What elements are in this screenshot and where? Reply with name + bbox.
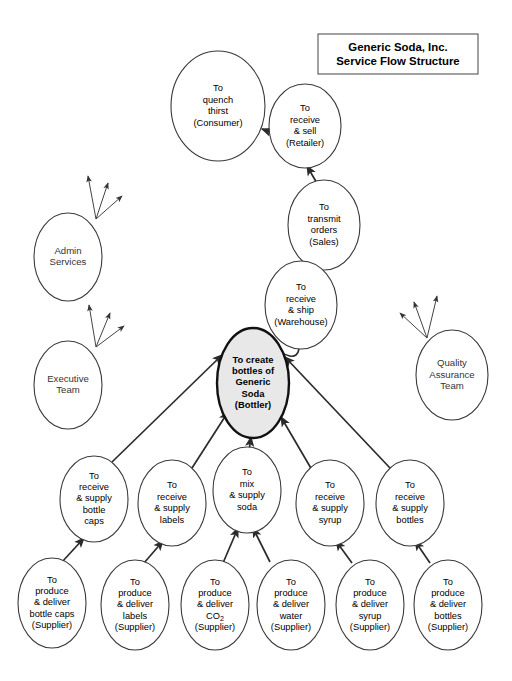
- node-label-supply_labels-line-1: To: [167, 480, 177, 490]
- node-label-bottler-line-4: Soda: [242, 388, 266, 399]
- node-supply_bottles[interactable]: Toreceive& supplybottles: [376, 460, 444, 546]
- node-quality[interactable]: QualityAssuranceTeam: [416, 330, 488, 420]
- node-mix_soda[interactable]: Tomix& supplysoda: [213, 447, 281, 533]
- node-label-sales-line-1: To: [319, 202, 329, 212]
- node-bottler[interactable]: To createbottles ofGenericSoda(Bottler): [217, 328, 289, 438]
- node-label-consumer-line-3: thirst: [208, 106, 229, 116]
- flow-edge-prod_caps-to-supply_caps: [62, 538, 84, 562]
- node-label-admin-line-1: Admin: [54, 245, 81, 256]
- node-label-bottler-line-2: bottles of: [232, 365, 275, 376]
- node-supply_caps[interactable]: Toreceive& supplybottlecaps: [60, 456, 128, 542]
- node-label-mix_soda-line-4: soda: [237, 502, 258, 512]
- node-label-executive-line-2: Team: [56, 384, 79, 395]
- node-label-warehouse-line-2: receive: [286, 294, 316, 304]
- node-label-prod_water-line-5: (Supplier): [271, 622, 311, 632]
- node-label-supply_caps-line-5: caps: [84, 516, 104, 526]
- node-label-prod_co2-line-1: To: [210, 577, 220, 587]
- admin-fan-ray-1: [88, 176, 96, 219]
- node-label-quality-line-2: Assurance: [429, 369, 474, 380]
- node-label-warehouse-line-3: & ship: [288, 305, 314, 315]
- node-label-supply_labels-line-2: receive: [157, 492, 187, 502]
- node-label-bottler-line-5: (Bottler): [235, 399, 271, 410]
- title-box-frame: [318, 34, 478, 74]
- node-label-sales-line-4: (Sales): [309, 237, 338, 247]
- node-label-warehouse-line-1: To: [296, 282, 306, 292]
- node-label-supply_caps-line-3: & supply: [76, 493, 112, 503]
- support-fans-layer: [88, 176, 437, 347]
- node-label-prod_bottles-line-5: (Supplier): [428, 622, 468, 632]
- node-label-prod_caps-line-4: bottle caps: [30, 609, 75, 619]
- node-label-prod_bottles-line-2: produce: [431, 588, 465, 598]
- node-label-mix_soda-line-2: mix: [240, 479, 255, 489]
- node-label-prod_water-line-3: & deliver: [273, 599, 309, 609]
- node-label-supply_syrup-line-1: To: [325, 480, 335, 490]
- node-label-retailer-line-4: (Retailer): [286, 138, 324, 148]
- executive-fan: [89, 305, 124, 347]
- node-label-prod_bottles-line-4: bottles: [434, 611, 462, 621]
- node-label-prod_syrup-line-3: & deliver: [352, 599, 388, 609]
- node-label-supply_caps-line-2: receive: [79, 482, 109, 492]
- node-supply_labels[interactable]: Toreceive& supplylabels: [138, 460, 206, 546]
- node-label-prod_labels-line-2: produce: [118, 588, 152, 598]
- quality-fan-ray-1: [427, 296, 437, 338]
- node-label-supply_caps-line-4: bottle: [83, 505, 106, 515]
- flow-edge-prod_labels-to-supply_labels: [144, 541, 163, 563]
- node-executive[interactable]: ExecutiveTeam: [34, 341, 102, 429]
- service-flow-diagram: Toquenchthirst(Consumer)Toreceive& sell(…: [0, 0, 512, 681]
- node-prod_syrup[interactable]: Toproduce& deliversyrup(Supplier): [336, 560, 404, 650]
- node-consumer[interactable]: Toquenchthirst(Consumer): [171, 51, 265, 161]
- node-label-prod_labels-line-1: To: [130, 577, 140, 587]
- node-label-sales-line-2: transmit: [307, 214, 340, 224]
- quality-fan: [400, 296, 437, 338]
- node-label-supply_syrup-line-2: receive: [315, 492, 345, 502]
- node-label-bottler-line-1: To create: [233, 354, 274, 365]
- node-prod_co2[interactable]: Toproduce& deliverCO2(Supplier): [181, 560, 249, 650]
- node-warehouse[interactable]: Toreceive& ship(Warehouse): [265, 261, 337, 349]
- node-label-consumer-line-1: To: [213, 83, 223, 93]
- node-label-warehouse-line-4: (Warehouse): [274, 317, 327, 327]
- node-label-supply_bottles-line-4: bottles: [396, 515, 424, 525]
- node-label-consumer-line-4: (Consumer): [193, 118, 242, 128]
- node-prod_water[interactable]: Toproduce& deliverwater(Supplier): [257, 560, 325, 650]
- node-sales[interactable]: Totransmitorders(Sales): [288, 180, 360, 270]
- node-label-supply_bottles-line-1: To: [405, 480, 415, 490]
- diagram-canvas: Toquenchthirst(Consumer)Toreceive& sell(…: [0, 0, 512, 681]
- node-label-prod_caps-line-5: (Supplier): [32, 620, 72, 630]
- node-prod_labels[interactable]: Toproduce& deliverlabels(Supplier): [101, 560, 169, 650]
- node-supply_syrup[interactable]: Toreceive& supplysyrup: [296, 460, 364, 546]
- node-label-supply_labels-line-4: labels: [160, 515, 185, 525]
- node-label-supply_bottles-line-3: & supply: [392, 503, 428, 513]
- flow-edge-supply_syrup-to-bottler: [281, 417, 312, 470]
- node-prod_bottles[interactable]: Toproduce& deliverbottles(Supplier): [414, 560, 482, 650]
- node-retailer[interactable]: Toreceive& sell(Retailer): [269, 84, 341, 168]
- nodes-layer: Toquenchthirst(Consumer)Toreceive& sell(…: [18, 51, 488, 650]
- node-label-prod_bottles-line-1: To: [443, 577, 453, 587]
- node-label-prod_labels-line-4: labels: [123, 611, 148, 621]
- admin-fan: [88, 176, 122, 219]
- node-label-prod_labels-line-5: (Supplier): [115, 622, 155, 632]
- node-label-prod_water-line-4: water: [279, 611, 303, 621]
- node-label-prod_syrup-line-4: syrup: [359, 611, 382, 621]
- node-label-prod_co2-line-5: (Supplier): [195, 622, 235, 632]
- node-label-prod_co2-line-2: produce: [198, 588, 232, 598]
- node-label-supply_bottles-line-2: receive: [395, 492, 425, 502]
- node-label-prod_water-line-2: produce: [274, 588, 308, 598]
- node-label-prod_caps-line-1: To: [47, 575, 57, 585]
- node-label-sales-line-3: orders: [311, 225, 338, 235]
- node-label-mix_soda-line-1: To: [242, 467, 252, 477]
- node-label-executive-line-1: Executive: [47, 373, 89, 384]
- node-admin[interactable]: AdminServices: [34, 213, 102, 301]
- node-prod_caps[interactable]: Toproduce& deliverbottle caps(Supplier): [18, 558, 86, 648]
- node-label-supply_caps-line-1: To: [89, 471, 99, 481]
- node-label-consumer-line-2: quench: [203, 95, 234, 105]
- node-label-retailer-line-3: & sell: [294, 126, 317, 136]
- node-label-retailer-line-1: To: [300, 103, 310, 113]
- node-label-supply_syrup-line-3: & supply: [312, 503, 348, 513]
- node-label-prod_caps-line-2: produce: [35, 586, 69, 596]
- node-label-mix_soda-line-3: & supply: [229, 490, 265, 500]
- title-line-2: Service Flow Structure: [336, 55, 459, 67]
- node-label-bottler-line-3: Generic: [236, 376, 271, 387]
- node-label-prod_caps-line-3: & deliver: [34, 597, 70, 607]
- node-label-prod_bottles-line-3: & deliver: [430, 599, 466, 609]
- node-label-prod_water-line-1: To: [286, 577, 296, 587]
